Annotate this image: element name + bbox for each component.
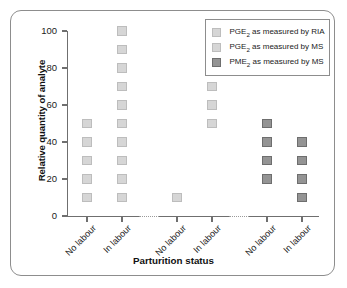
x-axis-segment <box>249 216 319 217</box>
chart-legend: PGE2 as measured by RIAPGE2 as measured … <box>205 19 330 76</box>
chart-plot-area: 020406080100 Relative quantity of analyt… <box>11 11 336 277</box>
legend-item[interactable]: PGE2 as measured by MS <box>212 40 323 55</box>
x-axis-gap-connector <box>139 216 159 217</box>
x-axis-gap-connector <box>229 216 249 217</box>
x-tick-mark <box>176 217 177 222</box>
data-point-marker <box>82 137 92 147</box>
data-point-marker <box>297 156 307 166</box>
figure-frame: 020406080100 Relative quantity of analyt… <box>10 10 335 276</box>
x-tick-mark <box>121 217 122 222</box>
legend-label: PME2 as measured by MS <box>230 57 324 68</box>
data-point-marker <box>207 119 217 129</box>
data-point-marker <box>117 82 127 92</box>
y-axis-line <box>67 31 68 216</box>
y-axis-title: Relative quantity of analyte <box>36 31 47 211</box>
x-tick-mark <box>301 217 302 222</box>
data-point-marker <box>172 193 182 203</box>
data-point-marker <box>117 100 127 110</box>
data-point-marker <box>82 156 92 166</box>
x-tick-mark <box>266 217 267 222</box>
data-point-marker <box>297 193 307 203</box>
y-tick-label: 0 <box>17 211 57 221</box>
x-axis-title: Parturition status <box>11 255 336 266</box>
data-point-marker <box>117 119 127 129</box>
data-point-marker <box>82 119 92 129</box>
y-tick-mark <box>62 30 67 31</box>
data-point-marker <box>117 137 127 147</box>
legend-swatch-icon <box>212 58 221 67</box>
data-point-marker <box>207 100 217 110</box>
y-tick-mark <box>62 141 67 142</box>
data-point-marker <box>297 174 307 184</box>
y-tick-mark <box>62 178 67 179</box>
data-point-marker <box>262 137 272 147</box>
y-tick-mark <box>62 67 67 68</box>
data-point-marker <box>117 45 127 55</box>
data-point-marker <box>82 174 92 184</box>
data-point-marker <box>262 156 272 166</box>
data-point-marker <box>117 193 127 203</box>
legend-item[interactable]: PME2 as measured by MS <box>212 55 323 70</box>
legend-swatch-icon <box>212 43 221 52</box>
x-tick-mark <box>211 217 212 222</box>
x-axis-segment <box>159 216 229 217</box>
data-point-marker <box>262 119 272 129</box>
data-point-marker <box>117 26 127 36</box>
legend-label: PGE2 as measured by MS <box>230 42 324 53</box>
x-tick-mark <box>86 217 87 222</box>
data-point-marker <box>117 63 127 73</box>
data-point-marker <box>82 193 92 203</box>
data-point-marker <box>117 156 127 166</box>
legend-item[interactable]: PGE2 as measured by RIA <box>212 25 323 40</box>
data-point-marker <box>297 137 307 147</box>
data-point-marker <box>262 174 272 184</box>
data-point-marker <box>207 82 217 92</box>
x-axis-segment <box>67 216 139 217</box>
y-tick-mark <box>62 104 67 105</box>
legend-swatch-icon <box>212 28 221 37</box>
data-point-marker <box>117 174 127 184</box>
legend-label: PGE2 as measured by RIA <box>230 27 325 38</box>
